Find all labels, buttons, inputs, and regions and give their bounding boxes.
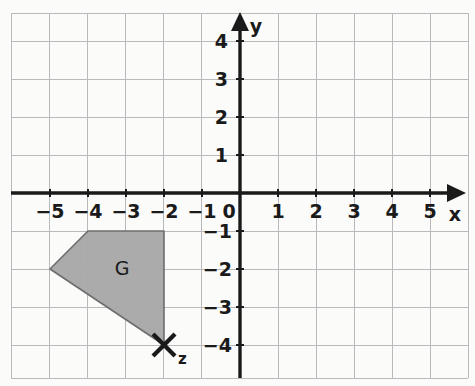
y-tick-label: −4 — [203, 334, 232, 356]
x-tick-label: 3 — [347, 200, 360, 222]
x-tick-label: −3 — [111, 200, 140, 222]
y-tick-label: 1 — [215, 144, 228, 166]
x-tick-label: −5 — [35, 200, 64, 222]
y-axis-name: y — [250, 15, 263, 37]
plot-canvas: −5 −4 −3 −2 −1 0 1 2 3 4 5 4 3 2 1 −1 −2… — [0, 0, 475, 386]
coordinate-plane-figure: −5 −4 −3 −2 −1 0 1 2 3 4 5 4 3 2 1 −1 −2… — [0, 0, 475, 386]
x-tick-label: −4 — [73, 200, 102, 222]
x-axis-name: x — [449, 203, 461, 225]
y-tick-label: −1 — [203, 220, 232, 242]
y-tick-label: 2 — [215, 106, 228, 128]
y-tick-label: −3 — [203, 296, 232, 318]
origin-label: 0 — [222, 200, 235, 222]
x-tick-label: 4 — [385, 200, 398, 222]
x-tick-label: 5 — [423, 200, 436, 222]
x-tick-label: 1 — [271, 200, 284, 222]
x-tick-label: −2 — [149, 200, 178, 222]
point-label-z: z — [178, 350, 187, 368]
y-tick-label: 3 — [215, 68, 228, 90]
y-tick-label: −2 — [203, 258, 232, 280]
x-tick-label: 2 — [309, 200, 322, 222]
shape-label-g: G — [115, 257, 130, 279]
y-tick-label: 4 — [215, 30, 228, 52]
x-tick-label: −1 — [187, 200, 216, 222]
